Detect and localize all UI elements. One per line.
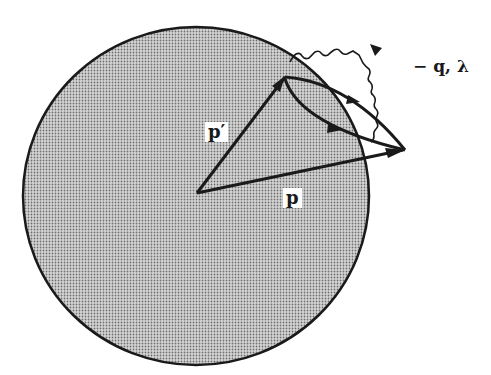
photon-arrowhead	[370, 44, 382, 56]
label-p-prime: p′	[205, 122, 228, 142]
label-p: p	[283, 188, 302, 208]
fermi-sphere	[23, 27, 369, 365]
upper-curve-arrowhead	[346, 95, 360, 104]
label-photon-momentum-polarization: − q, λ	[413, 58, 469, 75]
